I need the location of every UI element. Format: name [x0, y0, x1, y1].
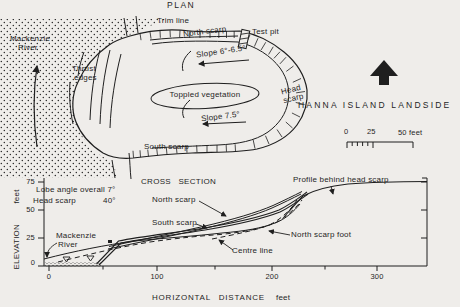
south-scarp-label-plan: South scarp — [144, 142, 189, 151]
x-tick-300: 300 — [367, 272, 387, 281]
y-axis-unit: feet — [12, 187, 21, 207]
scale-bar — [347, 142, 413, 148]
mackenzie-river-label-plan: Mackenzie River — [10, 34, 50, 52]
plan-title: PLAN — [167, 1, 195, 10]
note-lobe-angle: Lobe angle overall 7° — [36, 185, 115, 194]
thrust-line2: edges — [74, 73, 97, 82]
y-tick-25: 25 — [20, 233, 35, 242]
x-tick-0: 0 — [39, 272, 59, 281]
north-scarp-foot-label: North scarp foot — [291, 230, 351, 239]
north-scarp-label-cs: North scarp — [152, 195, 196, 204]
figure-hanna-island-landslide: PLAN Trim line North scarp Test pit Mack… — [0, 0, 460, 307]
mackenzie-cs-line2: River — [58, 240, 96, 249]
mackenzie-cs-line1: Mackenzie — [56, 231, 96, 240]
river-line2: River — [18, 43, 50, 52]
bank-marker — [108, 240, 112, 243]
mackenzie-river-label-cs: Mackenzie River — [56, 231, 96, 249]
note-head-scarp-value: 40° — [103, 196, 116, 205]
south-scarp-label-cs: South scarp — [152, 218, 197, 227]
profile-behind-head-scarp-label: Profile behind head scarp — [293, 175, 389, 184]
y-tick-0: 0 — [20, 258, 35, 267]
y-axis-label: ELEVATION — [12, 226, 21, 270]
riverbed-stipple — [45, 263, 101, 267]
test-pit-label: Test pit — [252, 27, 279, 36]
y-tick-75: 75 — [20, 177, 35, 186]
x-axis-label: HORIZONTAL DISTANCE — [152, 293, 265, 302]
y-tick-50: 50 — [20, 205, 35, 214]
centre-line-label: Centre line — [232, 246, 273, 255]
trim-line-label: Trim line — [157, 16, 189, 25]
scale-zero: 0 — [344, 127, 348, 136]
scale-mid: 25 — [367, 127, 376, 136]
scale-end: 50 feet — [398, 128, 422, 137]
figure-caption: HANNA ISLAND LANDSIDE — [298, 101, 451, 110]
toppled-vegetation-label: Toppled vegetation — [160, 90, 250, 99]
note-head-scarp: Head scarp — [33, 196, 76, 205]
x-axis-unit: feet — [276, 293, 290, 302]
north-arrow-icon — [370, 60, 398, 85]
x-tick-100: 100 — [147, 272, 167, 281]
thrust-edges-label: Thrust edges — [72, 64, 97, 82]
cross-section-title: CROSS SECTION — [141, 177, 216, 186]
thrust-line1: Thrust — [72, 64, 97, 73]
mackenzie-line1: Mackenzie — [10, 34, 50, 43]
x-tick-200: 200 — [262, 272, 282, 281]
